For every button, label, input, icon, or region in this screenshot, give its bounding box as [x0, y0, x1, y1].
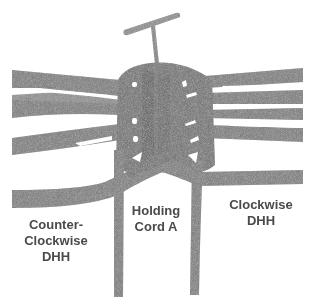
label-line: DHH: [6, 249, 106, 265]
label-line: Cord A: [118, 219, 194, 235]
left-working-cords: [12, 70, 120, 155]
label-line: Holding: [118, 203, 194, 219]
clockwise-dhh-label: Clockwise DHH: [216, 197, 306, 229]
holding-cord-a-label: Holding Cord A: [118, 203, 194, 235]
label-line: Clockwise: [216, 197, 306, 213]
label-line: DHH: [216, 213, 306, 229]
right-working-cords: [205, 68, 303, 142]
label-line: Clockwise: [6, 233, 106, 249]
label-line: Counter-: [6, 217, 106, 233]
t-pin-icon: [124, 13, 181, 64]
counter-clockwise-dhh-label: Counter- Clockwise DHH: [6, 217, 106, 265]
